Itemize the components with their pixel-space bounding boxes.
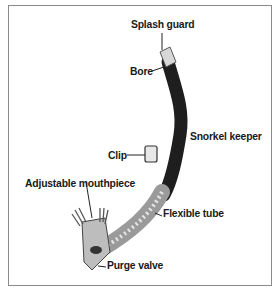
mouthpiece-body bbox=[82, 218, 110, 270]
purge-valve-shape bbox=[90, 246, 102, 254]
label-purge-valve: Purge valve bbox=[107, 259, 163, 271]
label-flexible-tube: Flexible tube bbox=[163, 207, 224, 219]
snorkel-tube bbox=[164, 62, 181, 195]
label-snorkel-keeper: Snorkel keeper bbox=[190, 130, 262, 142]
label-splash-guard: Splash guard bbox=[131, 18, 194, 30]
flexible-tube-shape bbox=[100, 192, 162, 250]
clip-shape bbox=[145, 146, 157, 162]
label-clip: Clip bbox=[108, 149, 127, 161]
label-bore: Bore bbox=[130, 65, 153, 77]
label-adjustable-mouthpiece: Adjustable mouthpiece bbox=[25, 177, 135, 189]
snorkel-illustration bbox=[0, 0, 278, 292]
